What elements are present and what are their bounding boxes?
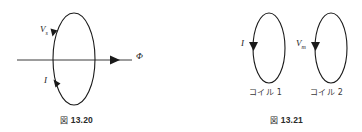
coil-1-outline [253, 13, 285, 83]
figure-caption-13-21: 図 13.21 [270, 114, 303, 125]
figures-vector-canvas [0, 0, 362, 132]
label-source-voltage: Vs [40, 24, 48, 36]
coil-1-current-arrowhead [249, 42, 258, 51]
label-coil-1-name: コイル 1 [249, 86, 282, 97]
label-current: I [44, 75, 47, 85]
flux-arrowhead [110, 56, 120, 65]
figure-13-20-graphic [17, 13, 132, 105]
label-mutual-voltage: Vm [296, 38, 306, 50]
coil-2-outline [315, 13, 347, 83]
coil-2-voltage-arrowhead [311, 42, 320, 51]
figure-caption-13-20: 図 13.20 [60, 114, 93, 125]
label-coil-1-current: I [241, 38, 244, 48]
caption-number: 13.21 [281, 115, 303, 125]
caption-mark-glyph: 図 [270, 116, 278, 125]
coil-loop-outline [53, 13, 95, 105]
caption-number: 13.20 [71, 115, 93, 125]
caption-mark-glyph: 図 [60, 116, 68, 125]
figure-board: Vs I Φ 図 13.20 I Vm コイル 1 コイル 2 図 13.21 [0, 0, 362, 132]
label-coil-2-name: コイル 2 [310, 86, 343, 97]
label-magnetic-flux: Φ [136, 51, 143, 61]
